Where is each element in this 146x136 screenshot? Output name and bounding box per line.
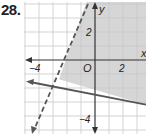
y-tick-neg4: −4 [79, 114, 91, 125]
x-tick-neg4: −4 [29, 63, 41, 74]
x-axis-label: x [140, 47, 146, 59]
coordinate-graph: y x O 2 −4 2 −4 [0, 0, 146, 136]
y-tick-2: 2 [85, 27, 92, 38]
origin-label: O [83, 62, 92, 74]
x-tick-2: 2 [118, 63, 125, 74]
